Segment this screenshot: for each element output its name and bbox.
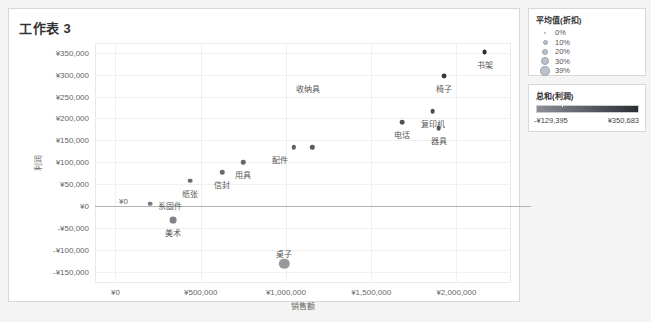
scatter-mark[interactable] xyxy=(441,74,446,79)
legend-size-label: 10% xyxy=(555,38,570,47)
legend-size-label: 39% xyxy=(555,66,570,75)
legend-size-swatch xyxy=(538,32,552,34)
y-axis-tick-label: ¥200,000 xyxy=(56,114,89,123)
y-axis-tick-label: -¥50,000 xyxy=(57,224,89,233)
dashboard-background: 工作表 3 书架椅子复印机电话器具收纳具配件用具信封纸张系固件美术桌子 ¥350… xyxy=(0,0,651,322)
y-axis-title: 利润 xyxy=(32,155,43,171)
scatter-mark-label: 椅子 xyxy=(436,83,452,94)
circle-icon xyxy=(541,57,549,65)
legend-size-swatch xyxy=(538,66,552,76)
scatter-mark-label: 美术 xyxy=(165,227,181,238)
gridline-horizontal xyxy=(95,140,511,141)
y-axis-tick-label: ¥350,000 xyxy=(56,48,89,57)
gridline-horizontal xyxy=(95,250,511,251)
circle-icon xyxy=(544,32,546,34)
worksheet-card: 工作表 3 书架椅子复印机电话器具收纳具配件用具信封纸张系固件美术桌子 ¥350… xyxy=(8,8,520,302)
scatter-mark-label: 复印机 xyxy=(421,118,445,129)
legend-size-label: 0% xyxy=(555,28,566,37)
y-axis-tick-label: ¥300,000 xyxy=(56,70,89,79)
legend-size-item[interactable]: 30% xyxy=(538,57,570,67)
scatter-mark-label: 系固件 xyxy=(158,200,182,211)
color-ramp xyxy=(536,105,639,113)
x-axis-tick-label: ¥0 xyxy=(111,288,120,297)
legend-color-max: ¥350,683 xyxy=(608,116,639,125)
gridline-vertical xyxy=(456,43,457,283)
legend-size-swatch xyxy=(538,49,552,56)
scatter-mark-label: 配件 xyxy=(272,154,288,165)
gridline-horizontal xyxy=(95,53,511,54)
legend-size-swatch xyxy=(538,40,552,45)
zero-x-label: ¥0 xyxy=(119,197,128,206)
y-axis-tick-label: ¥50,000 xyxy=(60,180,89,189)
legend-size-items[interactable]: 0%10%20%30%39% xyxy=(538,28,570,76)
legend-color-card[interactable]: 总和(利润) -¥129,395 ¥350,683 xyxy=(528,84,646,132)
scatter-mark-label: 桌子 xyxy=(276,248,292,259)
scatter-mark-label: 书架 xyxy=(477,59,493,70)
x-axis-tick-label: ¥2,000,000 xyxy=(436,288,476,297)
circle-icon xyxy=(542,49,549,56)
scatter-mark[interactable] xyxy=(400,120,405,125)
legend-size-title: 平均值(折扣) xyxy=(536,14,581,25)
gridline-horizontal xyxy=(95,162,511,163)
circle-icon xyxy=(540,66,550,76)
legend-size-label: 20% xyxy=(555,47,570,56)
y-axis-tick-label: -¥150,000 xyxy=(53,268,89,277)
circle-icon xyxy=(543,40,548,45)
scatter-mark-label: 信封 xyxy=(214,179,230,190)
page-title: 工作表 3 xyxy=(19,18,71,37)
legend-size-item[interactable]: 20% xyxy=(538,47,570,57)
gridline-vertical xyxy=(201,43,202,283)
gridline-horizontal xyxy=(95,272,511,273)
scatter-mark-label: 器具 xyxy=(431,135,447,146)
x-axis-title: 销售额 xyxy=(291,300,315,311)
legend-size-item[interactable]: 39% xyxy=(538,66,570,76)
legend-size-item[interactable]: 10% xyxy=(538,38,570,48)
scatter-mark[interactable] xyxy=(482,49,487,54)
scatter-mark[interactable] xyxy=(220,170,225,175)
scatter-mark[interactable] xyxy=(436,126,441,131)
scatter-mark[interactable] xyxy=(241,160,246,165)
gridline-vertical xyxy=(115,43,116,283)
y-axis-tick-label: ¥0 xyxy=(80,202,89,211)
legend-size-label: 30% xyxy=(555,57,570,66)
color-ramp-tick xyxy=(562,104,563,107)
gridline-horizontal xyxy=(95,97,511,98)
scatter-mark-label: 收纳具 xyxy=(296,83,320,94)
legend-size-swatch xyxy=(538,57,552,65)
gridline-vertical xyxy=(371,43,372,283)
scatter-mark[interactable] xyxy=(188,178,193,183)
scatter-mark[interactable] xyxy=(148,201,153,206)
x-axis-tick-label: ¥1,500,000 xyxy=(351,288,391,297)
y-axis-tick-label: ¥250,000 xyxy=(56,92,89,101)
x-axis-tick-label: ¥500,000 xyxy=(184,288,217,297)
y-axis-tick-label: ¥150,000 xyxy=(56,136,89,145)
gridline-horizontal xyxy=(95,118,511,119)
gridline-horizontal xyxy=(95,228,511,229)
scatter-mark-label: 纸张 xyxy=(182,188,198,199)
legend-size-item[interactable]: 0% xyxy=(538,28,570,38)
y-axis-tick-label: -¥100,000 xyxy=(53,246,89,255)
x-axis-tick-label: ¥1,000,000 xyxy=(266,288,306,297)
y-axis-tick-label: ¥100,000 xyxy=(56,158,89,167)
scatter-plot-area[interactable]: 书架椅子复印机电话器具收纳具配件用具信封纸张系固件美术桌子 ¥350,000¥3… xyxy=(95,43,511,283)
legend-color-min: -¥129,395 xyxy=(534,116,568,125)
gridline-horizontal xyxy=(95,75,511,76)
legend-size-card[interactable]: 平均值(折扣) 0%10%20%30%39% xyxy=(528,8,646,76)
scatter-mark[interactable] xyxy=(170,217,177,224)
legend-color-title: 总和(利润) xyxy=(536,90,573,101)
scatter-mark-label: 用具 xyxy=(235,169,251,180)
gridline-horizontal xyxy=(95,184,511,185)
scatter-mark[interactable] xyxy=(430,109,435,114)
scatter-mark-label: 电话 xyxy=(394,129,410,140)
